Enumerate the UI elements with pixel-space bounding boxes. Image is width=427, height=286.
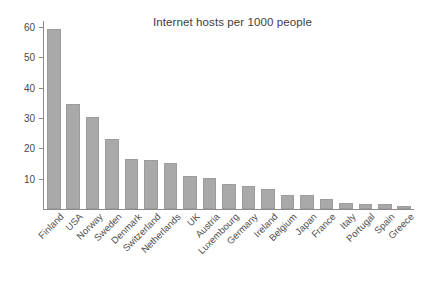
y-tick-label: 10 [9,173,35,184]
bar[interactable] [320,199,334,209]
bar-slot [242,21,256,209]
bar[interactable] [339,203,353,209]
bar[interactable] [300,195,314,209]
bar[interactable] [144,160,158,209]
bar-slot [320,21,334,209]
bar[interactable] [105,139,119,209]
bar-slot [164,21,178,209]
bar[interactable] [378,204,392,209]
bar[interactable] [359,204,373,209]
bar-slot [47,21,61,209]
bar[interactable] [222,184,236,209]
bar-slot [144,21,158,209]
bar-slot [125,21,139,209]
bar-slot [397,21,411,209]
bar-chart: Internet hosts per 1000 people 102030405… [0,0,427,286]
bar-slot [222,21,236,209]
bar-slot [281,21,295,209]
bar[interactable] [66,104,80,209]
bar-slot [183,21,197,209]
bar-slot [105,21,119,209]
bar[interactable] [281,195,295,209]
bar-series [44,21,414,209]
y-tick-label: 20 [9,143,35,154]
bar-slot [203,21,217,209]
y-tick-label: 50 [9,52,35,63]
bar-slot [66,21,80,209]
y-tick-label: 30 [9,113,35,124]
x-axis-line [43,209,414,210]
x-axis-labels: FinlandUSANorwaySwedenDenmarkSwitzerland… [44,211,414,285]
bar-slot [261,21,275,209]
bar[interactable] [86,117,100,209]
bar[interactable] [261,189,275,209]
bar[interactable] [125,159,139,209]
bar[interactable] [397,206,411,209]
bar-slot [300,21,314,209]
bar-slot [339,21,353,209]
bar-slot [86,21,100,209]
bar[interactable] [242,186,256,209]
bar-slot [359,21,373,209]
bar[interactable] [183,176,197,209]
bar[interactable] [203,178,217,209]
bar[interactable] [164,163,178,209]
y-tick-label: 40 [9,82,35,93]
bar-slot [378,21,392,209]
bar[interactable] [47,29,61,209]
